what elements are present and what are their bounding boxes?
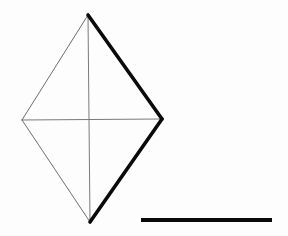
figure-canvas: [0, 0, 288, 236]
line-drawing: [0, 0, 288, 236]
paper-background: [0, 0, 288, 236]
